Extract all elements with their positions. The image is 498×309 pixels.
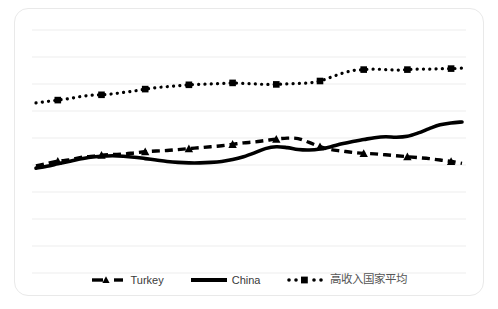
data-point-marker	[404, 66, 411, 73]
data-point-marker	[142, 86, 149, 93]
line-chart	[14, 8, 484, 296]
legend-label-high-income-average: 高收入国家平均	[330, 274, 407, 286]
legend-label-china: China	[232, 275, 261, 286]
legend-label-turkey: Turkey	[131, 275, 164, 286]
series-china	[36, 122, 462, 168]
legend-item-high-income-average[interactable]: 高收入国家平均	[286, 274, 407, 286]
data-point-marker	[273, 81, 280, 88]
data-point-marker	[186, 82, 193, 89]
series-line	[36, 122, 462, 168]
data-point-marker	[229, 80, 236, 87]
chart-legend: Turkey China 高收入国家平均	[14, 268, 484, 292]
data-point-marker	[55, 97, 62, 104]
series-line	[36, 138, 462, 166]
solid-line-swatch	[190, 274, 228, 286]
gridlines-group	[32, 30, 466, 273]
data-point-marker	[360, 66, 367, 73]
data-point-marker	[98, 92, 105, 99]
dotted-square-swatch	[286, 274, 326, 286]
data-point-marker	[448, 65, 455, 72]
chart-plot-area	[14, 8, 484, 296]
legend-item-turkey[interactable]: Turkey	[91, 274, 164, 286]
series-group	[36, 65, 462, 168]
data-point-marker	[317, 78, 324, 85]
legend-item-china[interactable]: China	[190, 274, 261, 286]
series-turkey	[36, 135, 462, 166]
dashed-triangle-swatch	[91, 274, 127, 286]
